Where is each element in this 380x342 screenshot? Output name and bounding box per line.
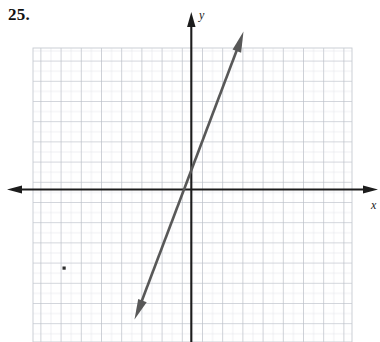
x-axis-arrow-left — [7, 185, 22, 193]
x-axis-arrow-right — [363, 185, 378, 193]
grid-layer — [33, 48, 352, 342]
y-axis-arrow-top — [187, 12, 195, 27]
x-axis-label: x — [370, 198, 377, 212]
y-axis-label: y — [198, 8, 205, 22]
print-speck-artifact — [63, 267, 66, 270]
worksheet-page: 25. x y — [0, 0, 380, 342]
grid-rect — [33, 48, 352, 342]
coordinate-plane-figure: x y — [0, 0, 380, 342]
